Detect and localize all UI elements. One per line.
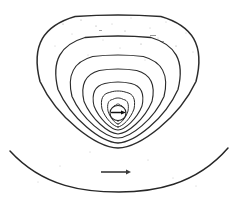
scale-arrow-head	[126, 170, 131, 175]
figure-container: Dipole magnetic field lines above a curv…	[0, 0, 237, 211]
scale-arrow	[101, 170, 131, 175]
field-line-group	[37, 15, 199, 148]
scan-noise	[38, 18, 206, 187]
ground-arc	[10, 148, 228, 192]
dipole-field-diagram	[0, 0, 237, 211]
dipole-marker	[110, 106, 126, 121]
